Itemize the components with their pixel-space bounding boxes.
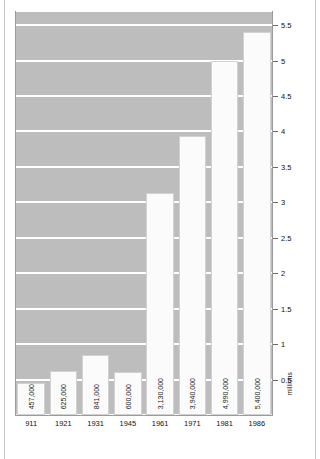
y-axis-tick-label: 2.5 — [281, 233, 291, 242]
plot-area: 457,000625,000841,000600,0003,130,0003,9… — [15, 11, 273, 415]
x-axis-tick-label: 1981 — [216, 419, 233, 428]
bar-value-label: 3,130,000 — [157, 378, 164, 409]
y-axis-left-spine — [15, 11, 16, 415]
bar: 600,000 — [114, 372, 142, 415]
x-axis-tick-label: 1945 — [120, 419, 137, 428]
bar-value-label: 4,990,000 — [221, 378, 228, 409]
bar: 5,400,000 — [243, 32, 271, 415]
bar-series: 457,000625,000841,000600,0003,130,0003,9… — [15, 11, 273, 415]
y-axis-tick — [273, 238, 278, 239]
y-axis-tick — [273, 273, 278, 274]
y-axis-tick-label: 3.5 — [281, 162, 291, 171]
figure-border-left — [4, 0, 5, 459]
y-axis-tick-label: 5.5 — [281, 21, 291, 30]
bar: 3,130,000 — [146, 193, 174, 415]
bar-value-label: 3,940,000 — [189, 378, 196, 409]
x-axis-tick-label: 1931 — [87, 419, 104, 428]
y-axis-tick — [273, 380, 278, 381]
x-axis-tick-label: 911 — [25, 419, 37, 428]
chart-figure: 457,000625,000841,000600,0003,130,0003,9… — [0, 0, 320, 459]
bar: 3,940,000 — [179, 136, 207, 415]
y-axis-tick — [273, 25, 278, 26]
bar: 625,000 — [50, 371, 78, 415]
x-axis-tick-label: 1961 — [152, 419, 169, 428]
bar-value-label: 5,400,000 — [253, 378, 260, 409]
y-axis-tick — [273, 202, 278, 203]
y-axis-tick-label: 4 — [281, 127, 285, 136]
bar: 841,000 — [82, 355, 110, 415]
x-axis-spine — [15, 415, 273, 416]
bar: 4,990,000 — [211, 61, 239, 415]
x-axis-labels: 9111921193119451961197119811986 — [15, 419, 273, 433]
y-axis-tick — [273, 309, 278, 310]
bar-value-label: 625,000 — [60, 384, 67, 409]
y-axis-tick — [273, 167, 278, 168]
y-axis-tick — [273, 61, 278, 62]
y-axis-tick-label: 1 — [281, 340, 285, 349]
y-axis-tick — [273, 344, 278, 345]
y-axis-title: millions — [286, 372, 293, 395]
y-axis: 0.511.522.533.544.555.5 — [273, 11, 307, 415]
y-axis-tick-label: 5 — [281, 56, 285, 65]
figure-border-right — [315, 0, 316, 459]
y-axis-tick-label: 1.5 — [281, 304, 291, 313]
x-axis-tick-label: 1921 — [55, 419, 72, 428]
y-axis-tick-label: 3 — [281, 198, 285, 207]
bar-value-label: 600,000 — [124, 384, 131, 409]
y-axis-tick — [273, 96, 278, 97]
bar-value-label: 457,000 — [28, 384, 35, 409]
x-axis-tick-label: 1986 — [249, 419, 266, 428]
y-axis-tick-label: 2 — [281, 269, 285, 278]
y-axis-tick — [273, 131, 278, 132]
bar-value-label: 841,000 — [92, 384, 99, 409]
x-axis-tick-label: 1971 — [184, 419, 201, 428]
bar: 457,000 — [17, 383, 45, 415]
y-axis-tick-label: 4.5 — [281, 92, 291, 101]
